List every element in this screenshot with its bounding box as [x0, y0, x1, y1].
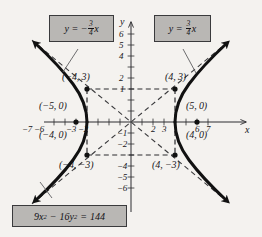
label-vertex-left-upper: (−4, 3)	[62, 72, 90, 82]
y-axis-label: y	[120, 17, 124, 27]
x-tick-2: 2	[151, 125, 155, 134]
label-vertex-left: (−4, 0)	[39, 130, 67, 140]
right-asymptote-numerator: 3	[186, 20, 192, 28]
leader-left-asymptote	[63, 49, 78, 72]
y-tick-5: 5	[119, 41, 123, 50]
y-tick--1: −1	[117, 129, 127, 138]
point-corner-right-upper	[172, 86, 177, 91]
x-tick--7: −7	[22, 125, 32, 134]
left-asymptote-sign: −	[81, 23, 88, 34]
equation-rhs: 144	[90, 211, 105, 222]
point-corner-right-lower	[172, 152, 177, 157]
left-asymptote-fraction: 3 4	[88, 20, 94, 36]
right-asymptote-denominator: 4	[186, 28, 192, 37]
label-corner-right-lower: (4, −3)	[152, 160, 180, 170]
point-corner-left-lower	[84, 152, 89, 157]
left-asymptote-denominator: 4	[88, 28, 94, 37]
y-tick-2: 2	[119, 74, 123, 83]
right-asymptote-lhs: y	[169, 23, 173, 34]
equation-exponent-b: 2	[74, 213, 77, 220]
equation-exponent-a: 2	[44, 213, 47, 220]
label-vertex-right: (4, 0)	[186, 130, 207, 140]
y-tick--6: −6	[117, 184, 127, 193]
x-axis-label: x	[245, 125, 249, 135]
leader-right-asymptote	[183, 49, 196, 73]
x-tick--2: −2	[78, 125, 88, 134]
y-tick-6: 6	[119, 30, 123, 39]
left-asymptote-label-box: y = − 3 4 x	[49, 15, 114, 42]
label-focus-left: (−5, 0)	[39, 101, 67, 111]
equation-minus: −	[50, 211, 57, 222]
equation-coef-b: 16	[60, 211, 70, 222]
equation-box: 9 x 2 − 16 y 2 = 144	[12, 205, 127, 227]
y-tick--2: −2	[117, 140, 127, 149]
x-tick--3: −3	[66, 125, 76, 134]
right-asymptote-fraction: 3 4	[186, 20, 192, 36]
left-asymptote-lhs: y	[64, 23, 68, 34]
right-asymptote-equals: =	[176, 23, 183, 34]
point-corner-left-upper	[84, 86, 89, 91]
y-tick--4: −4	[117, 162, 127, 171]
right-asymptote-variable: x	[192, 23, 196, 34]
hyperbola-figure: x y −7 −6 −3 −2 2 3 6 7 6 5 4 2 1 −1 −2 …	[0, 0, 262, 237]
graph-canvas	[0, 0, 262, 237]
y-tick-1: 1	[120, 85, 124, 94]
left-asymptote-equals: =	[71, 23, 78, 34]
label-corner-left-lower: (−4, −3)	[59, 160, 93, 170]
label-vertex-right-upper: (4, 3)	[165, 72, 186, 82]
right-asymptote-label-box: y = 3 4 x	[154, 15, 211, 42]
equation-equals: =	[80, 211, 87, 222]
y-tick--5: −5	[117, 173, 127, 182]
label-focus-right: (5, 0)	[186, 101, 207, 111]
left-asymptote-numerator: 3	[88, 20, 94, 28]
left-asymptote-variable: x	[94, 23, 98, 34]
y-axis	[128, 22, 135, 212]
y-tick-4: 4	[119, 52, 123, 61]
x-tick-3: 3	[162, 125, 166, 134]
